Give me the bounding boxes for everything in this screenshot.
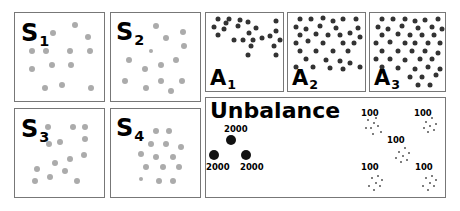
s2-label: S2 <box>116 20 144 47</box>
panel-unbalance: Unbalance 2000 2000 2000 100 100 100 100… <box>205 97 446 198</box>
panel-s3: S3 <box>14 108 105 198</box>
a3-label: A3 <box>374 68 400 92</box>
s1-label: S1 <box>21 21 49 48</box>
count-label: 100 <box>414 108 432 118</box>
a2-label: A2 <box>292 68 318 92</box>
count-label: 100 <box>361 108 379 118</box>
count-label: 100 <box>415 162 433 172</box>
panel-a2: A2 <box>287 12 366 92</box>
unbalance-scatter <box>206 98 446 198</box>
count-label: 2000 <box>206 162 230 172</box>
panel-a3: A3 <box>369 12 446 92</box>
panel-s2: S2 <box>110 12 201 102</box>
count-label: 100 <box>361 162 379 172</box>
count-label: 2000 <box>240 162 264 172</box>
a1-label: A1 <box>210 68 236 92</box>
panel-s1: S1 <box>14 12 105 102</box>
panel-a1: A1 <box>205 12 284 92</box>
count-label: 100 <box>387 135 405 145</box>
panel-s4: S4 <box>110 108 201 198</box>
s4-label: S4 <box>116 116 144 143</box>
count-label: 2000 <box>224 124 248 134</box>
s3-label: S3 <box>21 117 49 144</box>
